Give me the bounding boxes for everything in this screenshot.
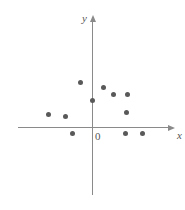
x-axis-label: x: [177, 130, 182, 141]
data-point: [140, 131, 145, 136]
data-point: [101, 85, 106, 90]
scatter-plot-figure: x y 0: [0, 0, 185, 210]
data-point: [123, 131, 128, 136]
y-axis-label: y: [82, 13, 87, 24]
data-point: [46, 112, 51, 117]
y-axis-line: [92, 22, 93, 195]
data-point: [124, 110, 129, 115]
y-axis-arrow-icon: [90, 15, 96, 22]
x-axis-arrow-icon: [168, 125, 175, 131]
data-point: [70, 131, 75, 136]
data-point: [78, 80, 83, 85]
data-point: [90, 98, 95, 103]
data-point: [111, 92, 116, 97]
x-axis-line: [18, 127, 168, 128]
data-point: [63, 114, 68, 119]
data-point: [125, 92, 130, 97]
origin-label: 0: [95, 131, 101, 142]
